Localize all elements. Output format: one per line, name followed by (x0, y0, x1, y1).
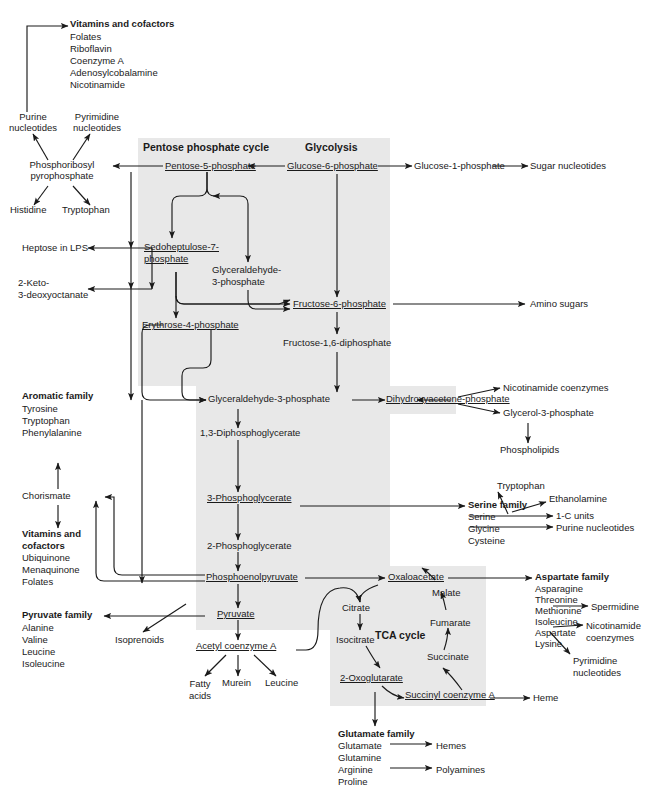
node-isocitrate: Isocitrate (336, 635, 375, 646)
serine-product-ethanolamine: Ethanolamine (549, 494, 607, 505)
node-oxaloacetate: Oxaloacetate (388, 572, 444, 583)
serine-product-1c-units: 1-C units (556, 511, 594, 522)
node-acetyl-coenzyme-a: Acetyl coenzyme A (196, 641, 276, 652)
vitamins-cofactors-2-header: Vitamins and cofactors (22, 528, 112, 552)
node-isoprenoids: Isoprenoids (115, 635, 164, 646)
aspartate-product-nicotinamide-coenzymes: Nicotinamide coenzymes (586, 620, 645, 643)
node-phospholipids: Phospholipids (500, 445, 559, 456)
pyruvate-family-header: Pyruvate family (22, 610, 92, 621)
node-pentose-5-phosphate: Pentose-5-phosphate (165, 161, 256, 172)
serine-item-cysteine: Cysteine (468, 536, 505, 547)
node-fructose-1-6-diphosphate: Fructose-1,6-diphosphate (283, 338, 391, 349)
glutamate-family-header: Glutamate family (338, 729, 415, 740)
aromatic-item-tyrosine: Tyrosine (22, 404, 58, 415)
serine-item-serine: Serine (468, 512, 495, 523)
node-glucose-1-phosphate: Glucose-1-phosphate (414, 161, 505, 172)
vitamins-item-folates: Folates (70, 32, 101, 43)
vitamins-cofactors-2-item-menaquinone: Menaquinone (22, 565, 80, 576)
tryptophan-prpp: Tryptophan (62, 205, 110, 216)
node-sugar-nucleotides: Sugar nucleotides (530, 161, 606, 172)
phosphoribosyl-pyrophosphate: Phosphoribosyl pyrophosphate (22, 160, 102, 182)
node-3-phosphoglycerate: 3-Phosphoglycerate (207, 493, 292, 504)
vitamins-cofactors-2-item-folates: Folates (22, 577, 53, 588)
node-glyceraldehyde-3-phosphate: Glyceraldehyde-3-phosphate (208, 394, 330, 405)
pyrimidine-nucleotides-top: Pyrimidine nucleotides (62, 112, 132, 134)
node-succinate: Succinate (427, 652, 469, 663)
glutamate-item-proline: Proline (338, 777, 368, 788)
aspartate-product-pyrimidine-nucleotides: Pyrimidine nucleotides (573, 655, 635, 678)
serine-family-header: Serine family (468, 500, 527, 511)
pyruvate-item-isoleucine: Isoleucine (22, 659, 65, 670)
glutamate-product-hemes: Hemes (436, 741, 466, 752)
pyruvate-item-valine: Valine (22, 635, 48, 646)
glutamate-product-polyamines: Polyamines (436, 765, 485, 776)
serine-item-glycine: Glycine (468, 524, 500, 535)
vitamins-item-nicotinamide: Nicotinamide (70, 80, 125, 91)
node-1-3-diphosphoglycerate: 1,3-Diphosphoglycerate (200, 428, 300, 439)
glutamate-item-glutamine: Glutamine (338, 753, 381, 764)
pyruvate-item-alanine: Alanine (22, 623, 54, 634)
node-2-oxoglutarate: 2-Oxoglutarate (340, 673, 403, 684)
node-fatty-acids: Fatty acids (180, 678, 220, 702)
node-nicotinamide-coenzymes-dhap: Nicotinamide coenzymes (503, 383, 609, 394)
aspartate-item-lysine: Lysine (535, 639, 562, 650)
glutamate-item-glutamate: Glutamate (338, 741, 382, 752)
aromatic-family-header: Aromatic family (22, 391, 93, 402)
node-fumarate: Fumarate (430, 618, 471, 629)
node-fructose-6-phosphate: Fructose-6-phosphate (293, 299, 386, 310)
node-2-phosphoglycerate: 2-Phosphoglycerate (207, 541, 292, 552)
node-leucine-acetylcoa: Leucine (265, 678, 298, 689)
histidine: Histidine (10, 205, 46, 216)
aspartate-product-spermidine: Spermidine (591, 602, 639, 613)
node-heme: Heme (533, 693, 558, 704)
serine-product-tryptophan: Tryptophan (497, 481, 545, 492)
section-header-tca-cycle: TCA cycle (375, 630, 425, 641)
node-amino-sugars: Amino sugars (530, 299, 588, 310)
vitamins-item-adenosylcobalamine: Adenosylcobalamine (70, 68, 158, 79)
aromatic-item-tryptophan: Tryptophan (22, 416, 70, 427)
node-2-keto-3-deoxyoctanate: 2-Keto- 3-deoxyoctanate (18, 277, 102, 301)
purine-nucleotides-top: Purine nucleotides (2, 112, 64, 134)
pathway-diagram: Vitamins and cofactors Folates Riboflavi… (0, 0, 645, 797)
node-phosphoenolpyruvate: Phosphoenolpyruvate (206, 572, 298, 583)
node-murein: Murein (222, 678, 251, 689)
glutamate-item-arginine: Arginine (338, 765, 373, 776)
node-heptose-in-lps: Heptose in LPS (22, 243, 88, 254)
vitamins-cofactors-2-item-ubiquinone: Ubiquinone (22, 553, 70, 564)
section-header-glycolysis: Glycolysis (305, 142, 358, 153)
node-dihydroxyacetone-phosphate: Dihydroxyacetone-phosphate (386, 394, 510, 405)
pyruvate-item-leucine: Leucine (22, 647, 55, 658)
node-malate: Malate (432, 588, 461, 599)
vitamins-cofactors-header: Vitamins and cofactors (70, 19, 174, 30)
node-glycerol-3-phosphate: Glycerol-3-phosphate (503, 408, 594, 419)
aromatic-item-phenylalanine: Phenylalanine (22, 428, 82, 439)
node-erythrose-4-phosphate: Erythrose-4-phosphate (142, 320, 239, 331)
vitamins-item-coenzyme-a: Coenzyme A (70, 56, 124, 67)
node-glyceraldehyde-3-phosphate-ppc: Glyceraldehyde- 3-phosphate (212, 264, 284, 288)
vitamins-item-riboflavin: Riboflavin (70, 44, 112, 55)
node-chorismate: Chorismate (22, 491, 71, 502)
node-citrate: Citrate (342, 603, 370, 614)
serine-product-purine-nucleotides: Purine nucleotides (556, 523, 634, 534)
node-succinyl-coenzyme-a: Succinyl coenzyme A (405, 690, 495, 701)
aspartate-family-header: Aspartate family (535, 572, 609, 583)
node-glucose-6-phosphate: Glucose-6-phosphate (287, 161, 378, 172)
section-header-pentose-phosphate-cycle: Pentose phosphate cycle (143, 142, 269, 153)
node-sedoheptulose-7-phosphate: Sedoheptulose-7- phosphate (144, 241, 222, 265)
node-pyruvate: Pyruvate (217, 609, 255, 620)
